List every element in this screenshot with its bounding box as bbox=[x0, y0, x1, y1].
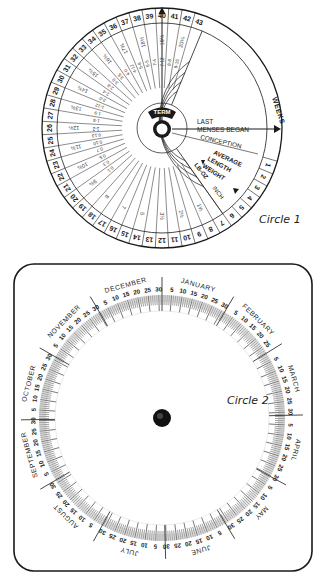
half-day-tick bbox=[273, 382, 280, 384]
day-tick bbox=[53, 471, 62, 476]
day-tick bbox=[173, 296, 174, 306]
half-day-tick bbox=[201, 302, 203, 309]
day-mark: 10 bbox=[277, 364, 286, 374]
day-tick bbox=[43, 447, 53, 450]
center-pivot[interactable] bbox=[153, 409, 171, 427]
day-tick bbox=[85, 502, 95, 515]
day-tick bbox=[197, 302, 202, 317]
half-day-tick bbox=[192, 299, 194, 306]
half-day-tick bbox=[256, 487, 262, 491]
day-tick bbox=[219, 515, 224, 524]
day-tick bbox=[275, 408, 285, 409]
half-day-tick bbox=[239, 504, 244, 509]
day-tick bbox=[273, 438, 283, 440]
day-mark: 10 bbox=[286, 432, 294, 440]
half-day-tick bbox=[55, 357, 61, 360]
day-tick bbox=[192, 299, 195, 309]
day-tick bbox=[82, 504, 88, 512]
week-number: 41 bbox=[170, 12, 179, 20]
half-day-tick bbox=[245, 332, 250, 337]
day-tick bbox=[271, 387, 281, 390]
half-day-tick bbox=[276, 439, 283, 440]
day-tick bbox=[236, 325, 243, 333]
half-day-tick bbox=[136, 531, 137, 538]
day-tick bbox=[221, 514, 226, 523]
day-tick bbox=[145, 524, 147, 540]
day-tick bbox=[249, 490, 257, 496]
half-day-tick bbox=[84, 323, 88, 328]
day-tick bbox=[76, 499, 83, 506]
day-tick bbox=[62, 484, 70, 490]
half-day-tick bbox=[40, 435, 47, 436]
half-day-tick bbox=[254, 343, 260, 347]
day-tick bbox=[101, 516, 106, 525]
day-tick bbox=[93, 316, 99, 324]
half-day-tick bbox=[277, 435, 284, 436]
half-day-tick bbox=[116, 525, 119, 531]
half-day-tick bbox=[218, 519, 221, 525]
half-day-tick bbox=[225, 515, 229, 521]
day-mark: 30 bbox=[220, 301, 230, 311]
day-mark: 15 bbox=[281, 375, 290, 384]
month-label-june: JUNE bbox=[190, 544, 211, 556]
day-mark: 30 bbox=[44, 352, 54, 362]
day-tick bbox=[44, 451, 54, 454]
day-tick bbox=[53, 361, 62, 366]
day-tick bbox=[96, 513, 101, 521]
month-boundary bbox=[93, 511, 110, 541]
half-day-tick bbox=[96, 314, 100, 320]
half-day-tick bbox=[106, 521, 109, 527]
half-day-tick bbox=[270, 372, 276, 375]
day-mark: 10 bbox=[179, 287, 187, 295]
hub-hole[interactable] bbox=[157, 124, 168, 135]
half-day-tick bbox=[266, 364, 272, 367]
day-tick bbox=[265, 367, 274, 371]
half-day-tick bbox=[76, 330, 81, 335]
month-boundary bbox=[40, 472, 69, 489]
half-day-tick bbox=[263, 357, 269, 360]
half-day-tick bbox=[275, 392, 282, 393]
day-tick bbox=[133, 528, 135, 538]
day-tick bbox=[268, 402, 284, 404]
half-day-tick bbox=[44, 451, 51, 453]
half-day-tick bbox=[264, 359, 270, 362]
half-day-tick bbox=[133, 299, 135, 306]
half-day-tick bbox=[51, 364, 57, 367]
half-day-tick bbox=[74, 499, 79, 504]
day-tick bbox=[269, 455, 278, 458]
half-day-tick bbox=[69, 494, 74, 499]
half-day-tick bbox=[239, 326, 244, 331]
day-tick bbox=[234, 497, 245, 509]
half-day-tick bbox=[41, 398, 48, 399]
month-label-april: APRIL bbox=[290, 439, 302, 463]
half-day-tick bbox=[256, 346, 262, 350]
day-tick bbox=[102, 311, 107, 320]
day-tick bbox=[226, 511, 232, 519]
day-mark: 30 bbox=[271, 474, 281, 484]
day-tick bbox=[78, 328, 85, 335]
day-mark: 30 bbox=[47, 481, 57, 491]
day-mark: 25 bbox=[262, 339, 272, 349]
day-tick bbox=[237, 503, 244, 510]
half-day-tick bbox=[196, 529, 198, 536]
day-mark: 25 bbox=[235, 515, 245, 525]
day-tick bbox=[258, 478, 266, 483]
half-day-tick bbox=[199, 302, 201, 309]
day-tick bbox=[201, 303, 204, 312]
day-tick bbox=[240, 329, 247, 336]
day-tick bbox=[194, 300, 197, 310]
half-day-tick bbox=[152, 534, 153, 541]
day-tick bbox=[128, 300, 132, 315]
day-tick bbox=[131, 527, 134, 537]
weight-value: 1-5 bbox=[92, 118, 100, 124]
half-day-tick bbox=[191, 530, 193, 537]
day-tick bbox=[118, 303, 124, 318]
half-day-tick bbox=[270, 374, 277, 377]
day-tick bbox=[273, 393, 283, 395]
day-tick bbox=[274, 400, 284, 402]
day-tick bbox=[249, 347, 262, 356]
half-day-tick bbox=[47, 374, 54, 377]
half-day-tick bbox=[43, 447, 50, 449]
day-mark: 20 bbox=[244, 508, 254, 518]
day-tick bbox=[59, 350, 67, 355]
